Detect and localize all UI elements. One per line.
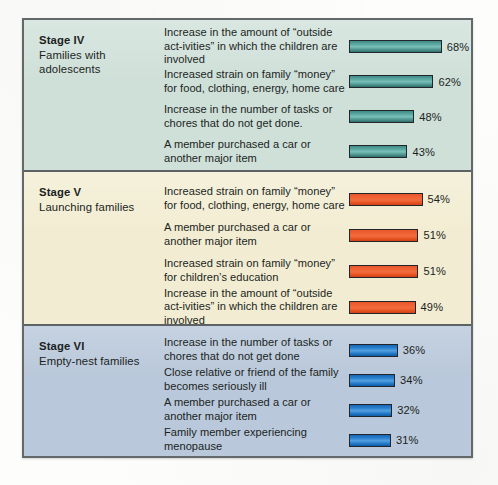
chart-bar <box>349 301 416 314</box>
chart-row-bar-area: 49% <box>349 289 471 325</box>
stage-items-stage-vi: Increase in the number of tasks or chore… <box>164 326 471 455</box>
chart-row: Increase in the amount of “outside act-i… <box>164 289 471 325</box>
chart-row-bar-area: 68% <box>349 29 471 64</box>
stage-description: Launching families <box>39 200 158 215</box>
chart-bar-value-label: 48% <box>419 111 442 123</box>
chart-row-label: Increased strain on family “money” for f… <box>164 68 349 95</box>
chart-row-label: Family member experiencing menopause <box>164 426 349 453</box>
chart-panel: Stage IV Families with adolescents Incre… <box>22 18 473 458</box>
chart-bar-value-label: 51% <box>423 265 446 277</box>
chart-row-label: A member purchased a car or another majo… <box>164 221 349 248</box>
chart-row-label: Increase in the number of tasks or chore… <box>164 103 349 130</box>
stage-name: Stage IV <box>39 33 158 48</box>
stage-section-stage-vi: Stage VI Empty-nest families Increase in… <box>24 324 471 456</box>
stage-name: Stage V <box>39 185 158 200</box>
chart-row-label: Increased strain on family “money” for c… <box>164 257 349 284</box>
chart-bar-value-label: 43% <box>412 146 435 158</box>
chart-row-bar-area: 31% <box>349 425 471 455</box>
chart-row: Increased strain on family “money” for f… <box>164 64 471 99</box>
chart-row: Increase in the number of tasks or chore… <box>164 99 471 134</box>
chart-bar <box>349 145 407 158</box>
chart-row-bar-area: 51% <box>349 217 471 253</box>
chart-row: A member purchased a car or another majo… <box>164 395 471 425</box>
chart-bar <box>349 404 392 417</box>
chart-bar-value-label: 68% <box>447 41 470 53</box>
chart-row-bar-area: 34% <box>349 365 471 395</box>
chart-row-bar-area: 36% <box>349 335 471 365</box>
chart-bar-value-label: 54% <box>428 193 451 205</box>
chart-bar-value-label: 51% <box>423 229 446 241</box>
chart-bar <box>349 374 395 387</box>
chart-row-label: Close relative or friend of the family b… <box>164 366 349 393</box>
chart-bar-value-label: 49% <box>421 301 444 313</box>
chart-bar <box>349 229 418 242</box>
chart-row: Increased strain on family “money” for f… <box>164 181 471 217</box>
chart-bar <box>349 40 442 53</box>
chart-row-label: A member purchased a car or another majo… <box>164 396 349 423</box>
chart-bar <box>349 75 433 88</box>
stage-name: Stage VI <box>39 339 158 354</box>
chart-row: Increase in the number of tasks or chore… <box>164 335 471 365</box>
chart-bar <box>349 434 391 447</box>
page-background: Stage IV Families with adolescents Incre… <box>0 0 498 485</box>
stage-items-stage-iv: Increase in the amount of “outside act-i… <box>164 20 471 169</box>
chart-bar <box>349 265 418 278</box>
stage-label-stage-v: Stage V Launching families <box>24 172 164 214</box>
chart-row: Increased strain on family “money” for c… <box>164 253 471 289</box>
chart-bar <box>349 110 414 123</box>
chart-row-bar-area: 54% <box>349 181 471 217</box>
chart-bar <box>349 193 423 206</box>
chart-row: Close relative or friend of the family b… <box>164 365 471 395</box>
chart-row-bar-area: 62% <box>349 64 471 99</box>
chart-row-label: Increase in the amount of “outside act-i… <box>164 26 349 67</box>
stage-label-stage-vi: Stage VI Empty-nest families <box>24 326 164 368</box>
chart-bar-value-label: 62% <box>438 76 461 88</box>
chart-bar-value-label: 36% <box>403 344 426 356</box>
chart-row-label: Increase in the amount of “outside act-i… <box>164 287 349 328</box>
chart-bar <box>349 344 398 357</box>
chart-bar-value-label: 34% <box>400 374 423 386</box>
stage-description: Empty-nest families <box>39 354 158 369</box>
chart-row: Family member experiencing menopause 31% <box>164 425 471 455</box>
chart-row-label: Increase in the number of tasks or chore… <box>164 336 349 363</box>
chart-row-bar-area: 51% <box>349 253 471 289</box>
chart-row: A member purchased a car or another majo… <box>164 134 471 169</box>
chart-row: A member purchased a car or another majo… <box>164 217 471 253</box>
stage-description: Families with adolescents <box>39 48 158 77</box>
chart-bar-value-label: 32% <box>397 404 420 416</box>
stage-items-stage-v: Increased strain on family “money” for f… <box>164 172 471 325</box>
stage-section-stage-v: Stage V Launching families Increased str… <box>24 170 471 324</box>
chart-row-bar-area: 43% <box>349 134 471 169</box>
chart-row: Increase in the amount of “outside act-i… <box>164 29 471 64</box>
chart-bar-value-label: 31% <box>396 434 419 446</box>
chart-row-label: A member purchased a car or another majo… <box>164 138 349 165</box>
chart-row-bar-area: 32% <box>349 395 471 425</box>
stage-label-stage-iv: Stage IV Families with adolescents <box>24 20 164 77</box>
chart-row-bar-area: 48% <box>349 99 471 134</box>
chart-row-label: Increased strain on family “money” for f… <box>164 185 349 212</box>
stage-section-stage-iv: Stage IV Families with adolescents Incre… <box>24 20 471 170</box>
